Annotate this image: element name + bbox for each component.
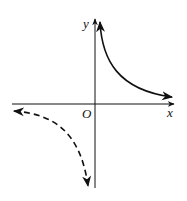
origin-label: O (82, 106, 92, 121)
y-axis-label: y (81, 16, 89, 31)
solid-branch-curve (100, 22, 172, 97)
dashed-branch-curve (14, 111, 88, 186)
hyperbola-diagram: y x O (0, 0, 187, 201)
x-axis-label: x (166, 105, 173, 120)
